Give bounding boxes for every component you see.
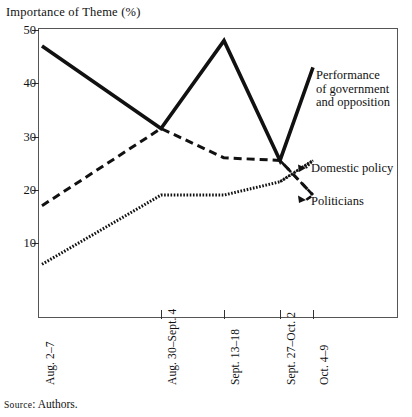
- series-label-politicians: Politicians: [311, 195, 364, 209]
- series-label-performance-line2: of government: [316, 82, 389, 96]
- series-line-performance: [42, 41, 313, 161]
- figure-root: Importance of Theme (%) 50 40 30 20 10 A…: [0, 0, 412, 417]
- arrowhead-politicians: [298, 196, 306, 204]
- source-label: Source: [4, 400, 32, 410]
- chart-canvas: [0, 0, 412, 417]
- series-label-domestic-policy: Domestic policy: [311, 162, 393, 176]
- series-label-performance: Performance of government and opposition: [316, 69, 408, 110]
- source-separator: :: [32, 398, 35, 410]
- source-value: Authors.: [38, 398, 78, 410]
- series-label-performance-line1: Performance: [316, 68, 380, 82]
- series-line-politicians: [42, 160, 313, 264]
- source-note: Source: Authors.: [4, 398, 78, 410]
- series-label-performance-line3: and opposition: [316, 95, 390, 109]
